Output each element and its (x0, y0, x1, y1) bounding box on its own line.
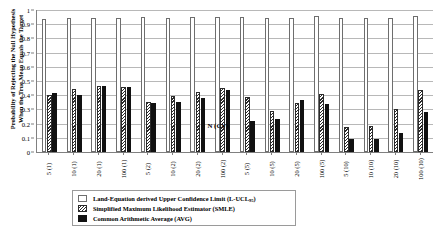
legend-swatch-avg (78, 215, 87, 222)
bar-lucl (215, 17, 220, 152)
bar-group (87, 10, 112, 152)
bar-group (186, 10, 211, 152)
y-tick-label: 0.8 (22, 35, 30, 42)
bar-avg (102, 86, 107, 152)
y-tick-mark (31, 137, 34, 138)
legend-label: Land-Equation derived Upper Confidence L… (93, 195, 256, 202)
x-tick: 20 (10) (388, 153, 402, 187)
bar-lucl (314, 16, 319, 152)
x-tick-label: 5 (2) (144, 163, 151, 175)
x-tick-label: 10 (5) (268, 161, 275, 176)
legend-swatch-lucl (78, 195, 87, 202)
y-tick-label: 0.5 (22, 78, 30, 85)
bar-group (235, 10, 260, 152)
bar-group (260, 10, 285, 152)
x-tick-mark (420, 152, 421, 155)
x-tick-label: 5 (5) (243, 163, 250, 175)
x-tick: 100 (10) (413, 153, 427, 187)
x-tick-mark (222, 152, 223, 155)
bar-avg (399, 133, 404, 152)
x-tick-label: 10 (2) (169, 161, 176, 176)
x-tick: 20 (1) (91, 153, 105, 187)
bar-chart: Probability of Rejecting the Null Hypoth… (0, 0, 436, 231)
x-tick: 100 (1) (116, 153, 130, 187)
bar-lucl (364, 18, 369, 152)
bar-group (408, 10, 433, 152)
bar-lucl (91, 18, 96, 152)
legend-item[interactable]: Common Arithmetic Average (AVG) (73, 214, 295, 224)
y-tick-label: 0.6 (22, 63, 30, 70)
legend-item[interactable]: Simplified Maximum Likelihood Estimator … (73, 203, 295, 213)
bar-avg (424, 112, 429, 152)
bar-smle (369, 126, 374, 152)
legend-item[interactable]: Land-Equation derived Upper Confidence L… (73, 193, 295, 203)
x-tick: 5 (5) (239, 153, 253, 187)
bars-layer (37, 10, 433, 152)
x-axis-title: N (CV) (0, 122, 436, 129)
x-tick-label: 10 (1) (70, 161, 77, 176)
x-tick-label: 100 (10) (416, 158, 423, 180)
x-tick: 10 (2) (165, 153, 179, 187)
y-tick-label: 0.9 (22, 21, 30, 28)
bar-smle (97, 86, 102, 152)
x-tick-mark (123, 152, 124, 155)
y-tick-mark (31, 152, 34, 153)
x-tick-mark (98, 152, 99, 155)
bar-lucl (166, 18, 171, 152)
y-tick-mark (31, 24, 34, 25)
x-tick: 5 (2) (140, 153, 154, 187)
bar-smle (344, 127, 349, 152)
x-tick-mark (370, 152, 371, 155)
bar-smle (121, 87, 126, 152)
legend: Land-Equation derived Upper Confidence L… (72, 190, 296, 226)
bar-group (384, 10, 409, 152)
bar-lucl (289, 18, 294, 152)
bar-avg (127, 87, 132, 152)
legend-label: Simplified Maximum Likelihood Estimator … (93, 205, 235, 212)
bar-group (136, 10, 161, 152)
x-tick-mark (246, 152, 247, 155)
bar-group (309, 10, 334, 152)
x-tick: 20 (5) (289, 153, 303, 187)
bar-smle (270, 111, 275, 152)
x-tick-mark (271, 152, 272, 155)
x-tick-mark (345, 152, 346, 155)
y-axis-ticks: 00.10.20.30.40.50.60.70.80.91 (0, 10, 34, 152)
bar-lucl (190, 17, 195, 152)
x-tick-label: 20 (10) (391, 160, 398, 179)
y-tick-label: 0.7 (22, 49, 30, 56)
y-tick-label: 0.4 (22, 92, 30, 99)
x-tick: 20 (2) (190, 153, 204, 187)
x-tick: 10 (10) (363, 153, 377, 187)
x-tick-mark (296, 152, 297, 155)
y-tick-mark (31, 10, 34, 11)
y-tick-mark (31, 66, 34, 67)
bar-lucl (67, 18, 72, 152)
bar-smle (418, 90, 423, 152)
bar-lucl (240, 17, 245, 152)
x-tick-mark (395, 152, 396, 155)
y-tick-label: 0.1 (22, 134, 30, 141)
bar-lucl (116, 18, 121, 152)
y-tick-mark (31, 95, 34, 96)
bar-lucl (265, 18, 270, 152)
y-tick-mark (31, 81, 34, 82)
legend-swatch-smle (78, 205, 87, 212)
x-tick-mark (321, 152, 322, 155)
bar-smle (394, 109, 399, 152)
x-tick-label: 5 (1) (45, 163, 52, 175)
bar-group (210, 10, 235, 152)
x-tick-mark (172, 152, 173, 155)
bar-lucl (413, 16, 418, 152)
bar-avg (349, 139, 354, 152)
bar-avg (374, 139, 379, 152)
bar-smle (220, 88, 225, 152)
bar-group (62, 10, 87, 152)
bar-group (334, 10, 359, 152)
y-tick-mark (31, 38, 34, 39)
y-tick-label: 0 (27, 149, 30, 156)
x-tick-label: 20 (5) (292, 161, 299, 176)
x-tick: 10 (1) (66, 153, 80, 187)
x-tick: 100 (5) (314, 153, 328, 187)
y-tick-label: 1 (27, 7, 30, 14)
